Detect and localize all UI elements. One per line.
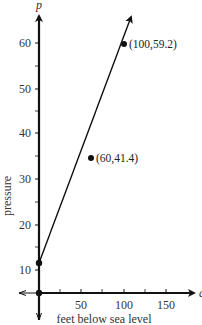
y-axis-symbol: p bbox=[35, 0, 42, 12]
data-series-pressure: (60,41.4) (100,59.2) bbox=[36, 17, 177, 296]
x-tick-50: 50 bbox=[75, 298, 87, 312]
x-tick-150: 150 bbox=[157, 298, 175, 312]
y-tick-40: 40 bbox=[19, 126, 31, 140]
x-tick-100: 100 bbox=[115, 298, 133, 312]
y-tick-30: 30 bbox=[19, 172, 31, 186]
point-label-100: (100,59.2) bbox=[129, 38, 177, 51]
x-axis-title: feet below sea level bbox=[57, 312, 153, 325]
x-axis-symbol: d bbox=[199, 286, 202, 300]
y-tick-50: 50 bbox=[19, 82, 31, 96]
point-label-60: (60,41.4) bbox=[96, 152, 138, 165]
y-axis-title: pressure bbox=[0, 176, 14, 216]
data-point-100 bbox=[121, 41, 127, 47]
data-point-origin bbox=[36, 290, 42, 296]
x-axis: 50 100 150 d feet below sea level bbox=[19, 286, 202, 325]
y-tick-20: 20 bbox=[19, 218, 31, 232]
pressure-chart: p 60 50 40 30 20 10 pressure bbox=[0, 0, 202, 325]
data-point-intercept bbox=[36, 260, 42, 266]
y-axis: p 60 50 40 30 20 10 pressure bbox=[0, 0, 42, 320]
y-tick-10: 10 bbox=[19, 263, 31, 277]
data-point-60 bbox=[88, 155, 94, 161]
y-tick-60: 60 bbox=[19, 36, 31, 50]
